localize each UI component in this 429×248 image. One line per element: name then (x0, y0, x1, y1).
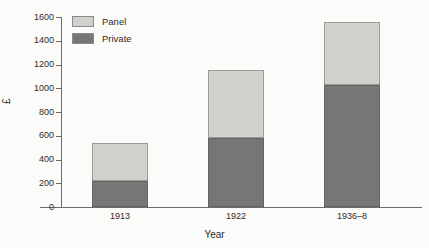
y-tick-label-wrap: 1600 (14, 13, 54, 22)
y-tick-label: 0 (20, 203, 54, 212)
x-axis-category-label: 1913 (80, 212, 160, 221)
x-axis-title: Year (0, 230, 429, 240)
y-axis-title: £ (2, 98, 12, 104)
y-tick-label-wrap: 600 (14, 131, 54, 140)
y-tick-label: 800 (20, 108, 54, 117)
y-tick-label-wrap: 800 (14, 108, 54, 117)
bar-group (324, 17, 380, 207)
legend-label-panel: Panel (102, 17, 126, 27)
legend-swatch-panel (72, 16, 94, 27)
y-tick-label: 600 (20, 131, 54, 140)
y-tick-label-wrap: 200 (14, 179, 54, 188)
x-axis-category-label: 1936–8 (312, 212, 392, 221)
y-tick-mark (56, 207, 62, 208)
y-tick-label: 1400 (20, 36, 54, 45)
y-tick-label: 400 (20, 155, 54, 164)
bar-segment-private (324, 85, 380, 207)
bar-segment-panel (324, 22, 380, 85)
x-axis-category-label: 1922 (196, 212, 276, 221)
bar-segment-private (208, 138, 264, 207)
legend-swatch-private (72, 33, 94, 44)
y-tick-label: 1600 (20, 13, 54, 22)
bar-segment-panel (208, 70, 264, 138)
y-tick-label-wrap: 0 (14, 203, 54, 212)
bar-group (208, 17, 264, 207)
y-tick-label: 200 (20, 179, 54, 188)
y-tick-label: 1200 (20, 60, 54, 69)
legend-item-panel: Panel (72, 14, 132, 29)
chart-legend: Panel Private (72, 14, 132, 48)
x-axis-line (40, 207, 422, 208)
y-tick-label: 1000 (20, 84, 54, 93)
legend-item-private: Private (72, 31, 132, 46)
y-tick-label-wrap: 400 (14, 155, 54, 164)
y-tick-label-wrap: 1200 (14, 60, 54, 69)
bar-segment-panel (92, 143, 148, 180)
y-tick-label-wrap: 1400 (14, 36, 54, 45)
legend-label-private: Private (102, 34, 132, 44)
bar-segment-private (92, 181, 148, 207)
y-tick-label-wrap: 1000 (14, 84, 54, 93)
stacked-bar-chart: 02004006008001000120014001600 £ 19131922… (0, 0, 429, 248)
